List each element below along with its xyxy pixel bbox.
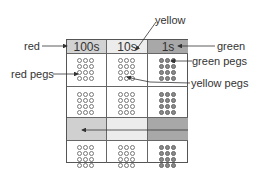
arrow-yellow-pegs: [127, 77, 190, 83]
annotation-arrows: [0, 0, 258, 180]
arrow-yellow: [136, 22, 156, 50]
